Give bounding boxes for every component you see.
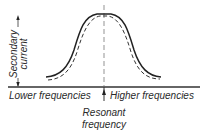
y-axis-label: Secondary current: [8, 26, 30, 82]
resonant-frequency-label: Resonant frequency: [74, 107, 134, 131]
y-axis-label-line2: current: [19, 30, 29, 78]
arrow-up-icon: [16, 15, 19, 20]
lower-frequencies-label: Lower frequencies: [9, 90, 91, 101]
resonant-label-line1: Resonant: [74, 107, 134, 119]
arrow-down-icon: [16, 82, 19, 87]
higher-frequencies-label: Higher frequencies: [110, 90, 194, 101]
resonant-arrow-icon: [102, 89, 106, 95]
resonant-label-line2: frequency: [74, 119, 134, 131]
solid-resonance-curve: [46, 14, 161, 77]
